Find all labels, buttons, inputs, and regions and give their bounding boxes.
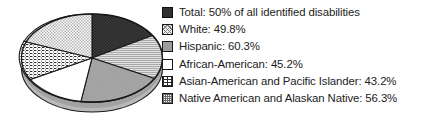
- legend-swatch-total-icon: [162, 7, 173, 18]
- legend-label-white: White: 49.8%: [179, 21, 246, 38]
- pie-chart-graphic: [18, 2, 166, 117]
- legend-label-native-american-alaskan-native: Native American and Alaskan Native: 56.3…: [179, 90, 397, 107]
- legend-swatch-white-icon: [162, 24, 173, 35]
- legend-item-hispanic[interactable]: Hispanic: 60.3%: [162, 38, 421, 55]
- legend-swatch-african-american-icon: [162, 59, 173, 70]
- chart-legend: Total: 50% of all identified disabilitie…: [162, 4, 421, 107]
- legend-label-african-american: African-American: 45.2%: [179, 56, 303, 73]
- legend-item-native-american-alaskan-native[interactable]: Native American and Alaskan Native: 56.3…: [162, 90, 421, 107]
- legend-swatch-hispanic-icon: [162, 41, 173, 52]
- pie-chart-svg: [18, 2, 166, 117]
- legend-label-asian-american-pacific-islander: Asian-American and Pacific Islander: 43.…: [179, 73, 396, 90]
- legend-swatch-asian-american-pacific-islander-icon: [162, 76, 173, 87]
- legend-item-white[interactable]: White: 49.8%: [162, 21, 421, 38]
- legend-swatch-native-american-alaskan-native-icon: [162, 93, 173, 104]
- legend-item-asian-american-pacific-islander[interactable]: Asian-American and Pacific Islander: 43.…: [162, 73, 421, 90]
- legend-label-hispanic: Hispanic: 60.3%: [179, 38, 260, 55]
- legend-item-total[interactable]: Total: 50% of all identified disabilitie…: [162, 4, 421, 21]
- legend-label-total: Total: 50% of all identified disabilitie…: [179, 4, 360, 21]
- pie-chart-figure: Total: 50% of all identified disabilitie…: [0, 0, 423, 119]
- legend-item-african-american[interactable]: African-American: 45.2%: [162, 56, 421, 73]
